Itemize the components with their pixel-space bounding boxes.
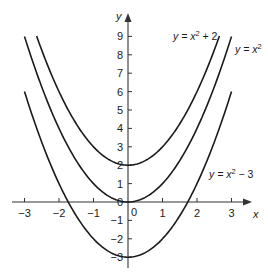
- x-tick-label: 2: [194, 207, 200, 219]
- y-tick-label: 9: [117, 30, 123, 42]
- y-tick-label: 4: [117, 122, 123, 134]
- series-label: y = x2: [234, 42, 262, 55]
- y-tick-label: 3: [117, 141, 123, 153]
- labels: −3−2−11230−3−2−10123456789xyy = x2 + 2y …: [18, 10, 261, 263]
- y-tick-label: −3: [110, 251, 123, 263]
- y-tick-label: 8: [117, 49, 123, 61]
- y-axis-label: y: [115, 10, 123, 22]
- x-tick-label: 3: [228, 207, 234, 219]
- chart: −3−2−11230−3−2−10123456789xyy = x2 + 2y …: [0, 0, 268, 274]
- y-tick-label: 7: [117, 67, 123, 79]
- x-tick-label: −1: [87, 207, 100, 219]
- y-tick-label: 1: [117, 178, 123, 190]
- y-tick-label: 0: [117, 196, 123, 208]
- origin-label: 0: [131, 206, 137, 218]
- y-tick-label: 6: [117, 86, 123, 98]
- x-tick-label: 1: [159, 207, 165, 219]
- x-axis-label: x: [252, 208, 259, 220]
- y-tick-label: −1: [110, 214, 123, 226]
- x-tick-label: −2: [53, 207, 66, 219]
- x-tick-label: −3: [18, 207, 31, 219]
- series-label: y = x2 − 3: [208, 167, 254, 180]
- y-tick-label: −2: [110, 233, 123, 245]
- axes: [12, 13, 252, 268]
- x-axis-arrow-icon: [243, 199, 252, 206]
- y-tick-label: 5: [117, 104, 123, 116]
- series-label: y = x2 + 2: [172, 29, 218, 42]
- y-axis-arrow-icon: [125, 13, 132, 22]
- y-tick-label: 2: [117, 159, 123, 171]
